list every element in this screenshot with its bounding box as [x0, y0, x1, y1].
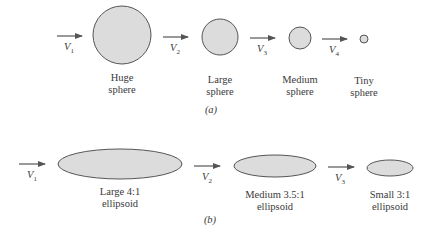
label-v1: V1 [27, 169, 37, 183]
label-v1: V1 [64, 41, 74, 55]
tiny-sphere [360, 35, 368, 43]
label-v3: V3 [257, 43, 267, 57]
panel-b-caption: (b) [204, 214, 216, 225]
panel-a-spheres [93, 6, 368, 64]
large-ellipsoid [58, 149, 182, 179]
large-ellipsoid-label: Large 4:1ellipsoid [100, 186, 140, 210]
medium-sphere-label: Mediumsphere [282, 74, 318, 98]
huge-sphere [93, 6, 151, 64]
medium-ellipsoid-label: Medium 3.5:1ellipsoid [245, 189, 305, 213]
label-v4: V4 [329, 44, 339, 58]
label-v3: V3 [335, 172, 345, 186]
large-sphere [202, 19, 238, 55]
tiny-sphere-label: Tinysphere [350, 75, 377, 99]
medium-sphere [289, 27, 311, 49]
huge-sphere-label: Hugesphere [108, 72, 135, 96]
label-v2: V2 [202, 171, 212, 185]
small-ellipsoid-label: Small 3:1ellipsoid [370, 189, 411, 213]
figure-graphics [0, 0, 432, 238]
large-sphere-label: Largesphere [206, 74, 233, 98]
label-v2: V2 [170, 42, 180, 56]
panel-a-caption: (a) [205, 104, 217, 115]
figure: V1 V2 V3 V4 Hugesphere Largesphere Mediu… [0, 0, 432, 238]
small-ellipsoid [367, 160, 413, 176]
panel-b-ellipsoids [58, 149, 413, 179]
medium-ellipsoid [234, 155, 316, 177]
